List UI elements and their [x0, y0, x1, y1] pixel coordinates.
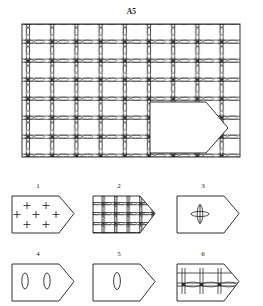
detail-figure-3	[172, 191, 244, 239]
mesh-fill-detail	[91, 194, 159, 236]
detail-figure-3-label: 3	[172, 182, 234, 190]
detail-figure-5-label: 5	[88, 250, 150, 258]
pentagon-outline	[177, 196, 239, 233]
detail-figure-1-label: 1	[7, 182, 69, 190]
detail-figure-2-label: 2	[88, 182, 150, 190]
detail-figure-2	[88, 191, 160, 239]
detail-figure-5	[88, 259, 160, 306]
detail-figure-6-label: 6	[172, 250, 234, 258]
main-mesh-svg	[0, 0, 263, 180]
detail-figure-4	[7, 259, 79, 306]
detail-figure-6	[172, 259, 244, 306]
detail-figure-1	[7, 191, 79, 239]
pentagon-outline	[12, 264, 74, 301]
detail-figure-4-label: 4	[7, 250, 69, 258]
main-mesh-panel	[0, 0, 263, 180]
pentagon-outline	[93, 264, 155, 301]
pentagon-outline	[12, 196, 74, 233]
